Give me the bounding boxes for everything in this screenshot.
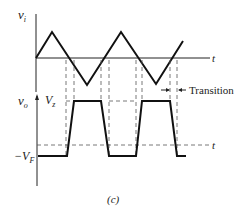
output-pulse-wave bbox=[38, 101, 186, 156]
vz-label: Vz bbox=[45, 93, 56, 109]
output-plot: vo Vz −VF t bbox=[14, 93, 216, 186]
input-t-label: t bbox=[212, 52, 216, 64]
projection-lines bbox=[66, 60, 177, 158]
figure-canvas: vi t Transition vo Vz −VF t (c) bbox=[0, 0, 252, 216]
input-plot: vi t bbox=[18, 7, 216, 92]
vf-label: −VF bbox=[14, 149, 34, 165]
transition-label: Transition bbox=[189, 84, 234, 96]
vo-label: vo bbox=[18, 93, 28, 110]
vi-label: vi bbox=[18, 7, 26, 24]
figure-caption: (c) bbox=[107, 193, 120, 206]
transition-annotation: Transition bbox=[161, 84, 234, 96]
vo-axis-arrow-icon bbox=[35, 94, 39, 100]
output-t-label: t bbox=[212, 139, 216, 151]
